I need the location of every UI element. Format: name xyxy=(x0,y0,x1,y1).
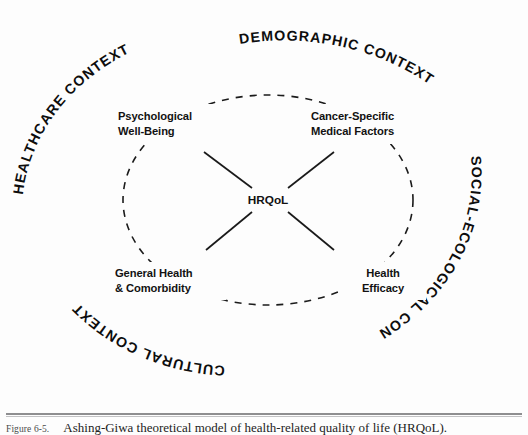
caption-line: Figure 6-5.Ashing-Giwa theoretical model… xyxy=(6,420,522,435)
domain-cancer-specific-medical-factors-line2: Medical Factors xyxy=(311,125,394,137)
domain-health-efficacy-line2: Efficacy xyxy=(362,282,405,294)
context-label-cultural: CULTURAL CONTEXT xyxy=(69,300,225,378)
context-demographic-textpath: DEMOGRAPHIC CONTEXT xyxy=(238,27,437,87)
connector-general-health-to-center xyxy=(206,212,252,250)
figure-caption: Figure 6-5.Ashing-Giwa theoretical model… xyxy=(0,405,528,435)
domain-general-health-comorbidity-line1: General Health xyxy=(115,267,193,279)
context-cultural-textpath: CULTURAL CONTEXT xyxy=(69,300,225,378)
center-label-hrqol: HRQoL xyxy=(248,193,289,207)
caption-number: Figure 6-5. xyxy=(6,424,49,434)
context-label-demographic: DEMOGRAPHIC CONTEXT xyxy=(238,27,437,87)
caption-divider-top xyxy=(6,413,522,415)
domain-health-efficacy-line1: Health xyxy=(366,267,400,279)
caption-divider-bottom xyxy=(6,416,522,417)
domain-cancer-specific-medical-factors-line1: Cancer-Specific xyxy=(311,110,394,122)
domain-psychological-well-being-line2: Well-Being xyxy=(118,125,175,137)
figure-root: HEALTHCARE CONTEXT DEMOGRAPHIC CONTEXT S… xyxy=(0,0,528,435)
connector-health-efficacy-to-center xyxy=(288,212,334,250)
connector-cancer-to-center xyxy=(288,152,334,188)
domain-general-health-comorbidity-line2: & Comorbidity xyxy=(115,282,192,294)
caption-body: Ashing-Giwa theoretical model of health-… xyxy=(63,420,447,435)
hrqol-model-diagram: HEALTHCARE CONTEXT DEMOGRAPHIC CONTEXT S… xyxy=(0,0,528,435)
connector-psychological-to-center xyxy=(204,152,252,188)
domain-psychological-well-being-line1: Psychological xyxy=(118,110,192,122)
